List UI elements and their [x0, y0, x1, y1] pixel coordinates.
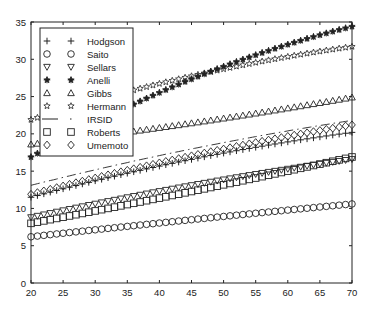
anelli-marker [291, 39, 298, 46]
saito-marker [207, 214, 214, 221]
anelli-marker [265, 47, 272, 54]
saito-marker [118, 224, 125, 231]
legend-label: Hermann [87, 101, 126, 112]
saito-marker [169, 218, 176, 225]
gibbs-marker [214, 116, 221, 122]
saito-marker [130, 222, 137, 229]
saito-marker [79, 228, 86, 235]
gibbs-marker [156, 124, 163, 130]
y-tick-label: 0 [21, 278, 26, 289]
saito-marker [285, 207, 292, 214]
anelli-marker [285, 41, 292, 48]
hermann-marker [291, 52, 297, 58]
sellars-marker [156, 189, 163, 195]
hodgson-marker [246, 145, 253, 152]
roberts-marker [240, 177, 247, 184]
gibbs-marker [201, 118, 208, 124]
anelli-marker [259, 49, 266, 56]
hermann-marker [342, 44, 348, 50]
sellars-marker [111, 197, 118, 203]
anelli-marker [342, 25, 349, 32]
sellars-marker [85, 203, 92, 209]
roberts-marker [118, 203, 125, 210]
hermann-marker [330, 46, 336, 52]
hermann-marker [176, 76, 182, 82]
gibbs-marker [169, 123, 176, 129]
anelli-marker [317, 32, 324, 39]
saito-marker [342, 201, 349, 208]
umemoto-marker [336, 123, 343, 131]
legend-label: Gibbs [87, 88, 112, 99]
hodgson-marker [265, 142, 272, 149]
anelli-marker [278, 43, 285, 50]
hermann-marker [317, 48, 323, 54]
roberts-marker [137, 199, 144, 206]
saito-marker [214, 214, 221, 221]
hermann-marker [143, 84, 149, 90]
gibbs-marker [304, 102, 311, 108]
anelli-marker [163, 87, 170, 94]
x-tick-label: 60 [283, 287, 294, 298]
gibbs-marker [195, 119, 202, 125]
hermann-marker [259, 58, 265, 64]
series-saito [28, 201, 356, 240]
sellars-marker [143, 191, 150, 197]
sellars-marker [98, 200, 105, 206]
saito-marker [304, 205, 311, 212]
legend-label: Anelli [87, 75, 110, 86]
roberts-marker [143, 197, 150, 204]
saito-marker [291, 206, 298, 213]
saito-marker [98, 226, 105, 233]
sellars-marker [163, 187, 170, 193]
hermann-marker [278, 55, 284, 61]
umemoto-marker [323, 125, 330, 133]
roberts-marker [124, 201, 131, 208]
roberts-marker [79, 210, 86, 217]
gibbs-marker [278, 106, 285, 112]
hermann-marker [156, 80, 162, 86]
hodgson-marker [336, 131, 343, 138]
gibbs-marker [163, 124, 170, 130]
gibbs-marker [207, 117, 214, 123]
hermann-marker [298, 51, 304, 57]
gibbs-marker [285, 105, 292, 111]
y-tick-label: 35 [15, 17, 26, 28]
hermann-marker [253, 59, 259, 65]
saito-marker [317, 204, 324, 211]
saito-marker [124, 223, 131, 230]
x-tick-label: 20 [26, 287, 37, 298]
sellars-marker [246, 173, 253, 179]
saito-marker [310, 204, 317, 211]
gibbs-marker [342, 95, 349, 101]
sellars-marker [285, 166, 292, 172]
x-tick-label: 45 [186, 287, 197, 298]
sellars-marker [342, 158, 349, 164]
saito-marker [92, 226, 99, 233]
hodgson-marker [272, 141, 279, 148]
roberts-marker [98, 206, 105, 213]
gibbs-marker [323, 98, 330, 104]
saito-marker [201, 215, 208, 222]
saito-marker [34, 233, 41, 240]
legend-label: IRSID [87, 114, 112, 125]
x-tick-label: 50 [218, 287, 229, 298]
hermann-marker [323, 47, 329, 53]
gibbs-marker [233, 113, 240, 119]
gibbs-marker [310, 101, 317, 107]
saito-marker [73, 229, 80, 236]
hodgson-marker [252, 144, 259, 151]
saito-marker [220, 213, 227, 220]
sellars-marker [278, 167, 285, 173]
saito-marker [188, 216, 195, 223]
saito-marker [272, 208, 279, 215]
sellars-marker [137, 192, 144, 198]
saito-marker [156, 220, 163, 227]
hermann-marker [304, 50, 310, 56]
roberts-marker [111, 204, 118, 211]
hermann-marker [272, 56, 278, 62]
y-tick-label: 15 [15, 166, 26, 177]
saito-marker [297, 206, 304, 213]
saito-marker [53, 231, 60, 238]
gibbs-marker [246, 111, 253, 117]
hermann-marker [246, 61, 252, 67]
